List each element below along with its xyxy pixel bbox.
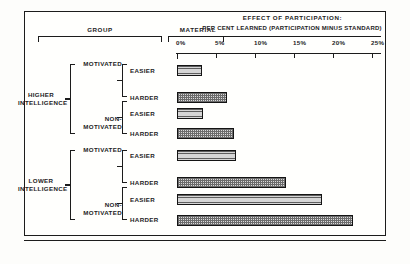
bar-1: [177, 92, 227, 103]
bar-4: [177, 150, 236, 161]
bar-6: [177, 194, 322, 205]
material-label-7: HARDER: [130, 216, 159, 224]
axis-baseline: [176, 53, 381, 55]
material-label-6: EASIER: [130, 196, 155, 204]
column-header-group: GROUP: [30, 26, 170, 33]
axis-tick-20: [333, 54, 334, 58]
material-label-5: HARDER: [130, 179, 159, 187]
motivation-label-1: NON-MOTIVATED: [78, 115, 122, 130]
material-label-1: HARDER: [130, 94, 159, 102]
axis-tick-label-25: 25%: [371, 39, 384, 46]
motivation-label-2: MOTIVATED: [78, 146, 122, 154]
bar-2: [177, 108, 203, 119]
bar-5: [177, 177, 286, 188]
axis-tick-0: [177, 54, 178, 59]
material-label-4: EASIER: [130, 152, 155, 160]
chart-figure: GROUP MATERIAL EFFECT OF PARTICIPATION: …: [0, 0, 410, 264]
axis-tick-15: [294, 54, 295, 58]
material-label-2: EASIER: [130, 110, 155, 118]
intelligence-label-0: HIGHERINTELLIGENCE: [18, 91, 64, 106]
axis-top-rule: [176, 36, 381, 37]
axis-tick-label-15: 15%: [293, 39, 306, 46]
axis-tick-5: [216, 54, 217, 58]
chart-title: EFFECT OF PARTICIPATION:: [200, 14, 385, 21]
axis-tick-label-5: 5%: [215, 39, 225, 46]
chart-subtitle: PER CENT LEARNED (PARTICIPATION MINUS ST…: [186, 25, 398, 31]
figure-underline: [24, 240, 386, 241]
axis-tick-label-20: 20%: [332, 39, 345, 46]
motivation-label-0: MOTIVATED: [78, 60, 122, 68]
axis-tick-label-0: 0%: [176, 39, 186, 46]
group-header-rule: [38, 36, 162, 43]
material-label-3: HARDER: [130, 130, 159, 138]
axis-tick-label-10: 10%: [254, 39, 267, 46]
axis-tick-10: [255, 54, 256, 58]
material-label-0: EASIER: [130, 67, 155, 75]
intelligence-label-1: LOWERINTELLIGENCE: [18, 177, 64, 192]
axis-tick-25: [372, 54, 373, 58]
bar-7: [177, 215, 353, 226]
bar-3: [177, 128, 234, 139]
motivation-label-3: NON-MOTIVATED: [78, 201, 122, 216]
bar-0: [177, 65, 202, 76]
